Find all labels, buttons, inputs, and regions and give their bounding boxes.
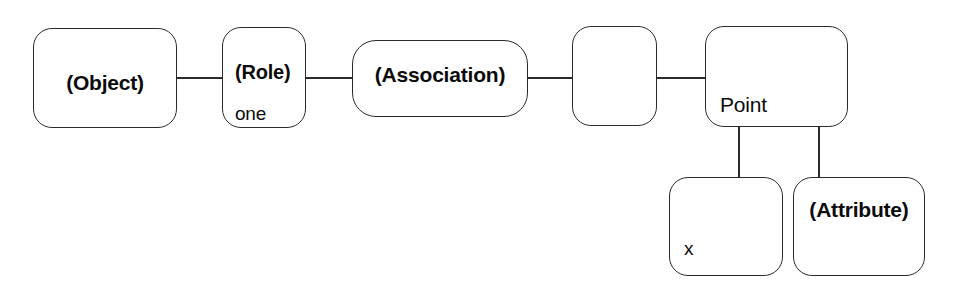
connector-point-x xyxy=(738,127,740,178)
node-role-label: (Role) xyxy=(235,61,295,84)
connector-role-association xyxy=(306,77,353,79)
node-role[interactable]: (Role) one xyxy=(222,27,306,128)
connector-empty-point xyxy=(657,77,706,79)
node-empty[interactable] xyxy=(572,26,657,126)
node-attribute[interactable]: (Attribute) xyxy=(793,177,925,276)
node-attribute-label: (Attribute) xyxy=(794,198,924,222)
connector-point-attribute xyxy=(818,127,820,178)
node-object[interactable]: (Object) xyxy=(33,28,177,128)
node-object-label: (Object) xyxy=(34,71,176,95)
diagram-canvas: (Object) (Role) one (Association) Point … xyxy=(0,0,953,291)
node-role-value: one xyxy=(235,103,295,125)
connector-association-empty xyxy=(528,77,573,79)
node-point-label: Point xyxy=(720,93,837,117)
connector-object-role xyxy=(177,77,223,79)
node-x-label: x xyxy=(684,238,772,260)
node-point[interactable]: Point xyxy=(705,26,848,127)
node-association-label: (Association) xyxy=(353,63,527,87)
node-association[interactable]: (Association) xyxy=(352,40,528,117)
node-x[interactable]: x xyxy=(669,177,783,276)
